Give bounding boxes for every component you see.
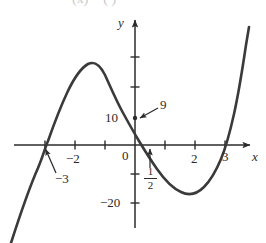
fraction-numerator: 1: [144, 166, 157, 177]
x-tick-label-2: 2: [191, 152, 198, 165]
origin-label: 0: [122, 149, 129, 162]
y-tick-label-minus-20: −20: [100, 196, 120, 209]
y-intercept-point: [133, 116, 137, 120]
annotation-arrow-minus-three: [46, 149, 57, 173]
y-axis-label: y: [118, 16, 124, 29]
annotation-label-one-half: 1 2: [144, 166, 157, 191]
x-axis-label: x: [252, 150, 258, 163]
annotation-label-minus-three: −3: [55, 172, 69, 185]
plot-canvas: [0, 0, 266, 243]
cubic-curve: [11, 27, 249, 243]
graph-figure: (x) = ( ): [0, 0, 266, 243]
x-tick-label-minus-2: −2: [66, 152, 80, 165]
annotation-label-nine: 9: [160, 98, 167, 111]
y-tick-label-10: 10: [105, 111, 118, 124]
annotation-arrow-nine: [140, 108, 158, 118]
x-tick-label-3: 3: [222, 150, 229, 163]
fraction-denominator: 2: [144, 180, 157, 191]
